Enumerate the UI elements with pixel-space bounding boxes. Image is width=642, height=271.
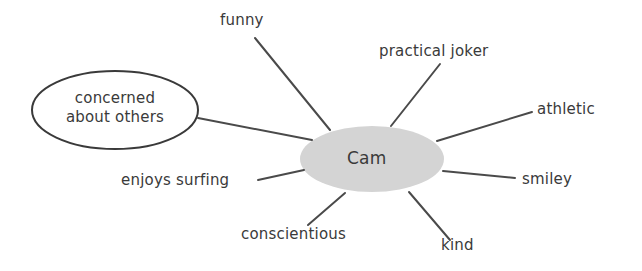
link-practical-joker: [391, 64, 440, 126]
node-label-athletic: athletic: [537, 102, 595, 117]
node-label-enjoys-surfing: enjoys surfing: [121, 173, 229, 188]
node-label-conscientious: conscientious: [241, 227, 346, 242]
node-label-practical-joker: practical joker: [379, 44, 488, 59]
node-label-line-2: about others: [48, 108, 182, 127]
node-label-concerned-about-others: concerned about others: [48, 89, 182, 127]
center-label: Cam: [347, 150, 386, 167]
link-funny: [255, 38, 330, 130]
link-athletic: [437, 112, 532, 141]
link-enjoys-surfing: [258, 170, 304, 180]
mind-map-diagram: Cam funny practical joker athletic smile…: [0, 0, 642, 271]
link-smiley: [443, 171, 515, 178]
node-label-kind: kind: [441, 238, 474, 253]
node-label-line-1: concerned: [48, 89, 182, 108]
node-label-funny: funny: [220, 13, 264, 28]
link-kind: [409, 192, 450, 240]
link-concerned-about-others: [198, 118, 312, 140]
node-label-smiley: smiley: [522, 172, 572, 187]
link-conscientious: [308, 193, 345, 225]
